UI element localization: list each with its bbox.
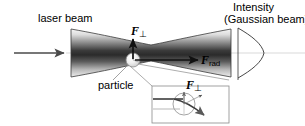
particle-label: particle: [98, 80, 133, 92]
inset-force-perpendicular-symbol: F: [186, 78, 194, 92]
force-radiation-subscript: rad: [209, 59, 220, 68]
intensity-label: Intensity: [233, 2, 274, 14]
inset-force-perpendicular-label: F⊥: [186, 79, 202, 93]
force-radiation-label: Frad: [201, 54, 220, 68]
force-radiation-symbol: F: [201, 53, 209, 67]
force-perpendicular-label: F⊥: [131, 25, 147, 39]
gaussian-beam-label: (Gaussian beam): [224, 14, 305, 26]
optical-trapping-figure: laser beam Intensity (Gaussian beam) F⊥ …: [0, 0, 305, 126]
force-perpendicular-subscript: ⊥: [139, 29, 147, 39]
laser-beam-label: laser beam: [38, 13, 92, 25]
force-perpendicular-symbol: F: [131, 24, 139, 38]
inset-force-perpendicular-subscript: ⊥: [194, 83, 202, 93]
